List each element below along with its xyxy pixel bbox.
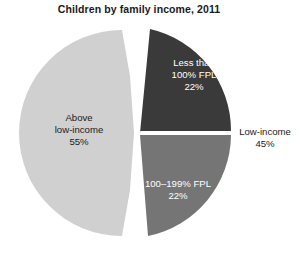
slice-label-line: Above <box>32 112 126 124</box>
annotation-label-line: Low-income <box>231 126 299 138</box>
annotation-value: 45% <box>231 138 299 150</box>
pie-chart-figure: Children by family income, 2011 Above lo… <box>0 0 299 253</box>
slice-value: 22% <box>124 190 232 202</box>
slice-label-line: 100–199% FPL <box>124 178 232 190</box>
annotation-low-income: Low-income 45% <box>231 126 299 150</box>
slice-value: 22% <box>148 81 240 93</box>
slice-label-less-than-100-fpl: Less than 100% FPL 22% <box>148 57 240 93</box>
slice-label-line: 100% FPL <box>148 69 240 81</box>
slice-label-line: Less than <box>148 57 240 69</box>
slice-label-above-low-income: Above low-income 55% <box>32 112 126 148</box>
slice-value: 55% <box>32 136 126 148</box>
slice-label-line: low-income <box>32 124 126 136</box>
slice-label-100-199-fpl: 100–199% FPL 22% <box>124 178 232 202</box>
